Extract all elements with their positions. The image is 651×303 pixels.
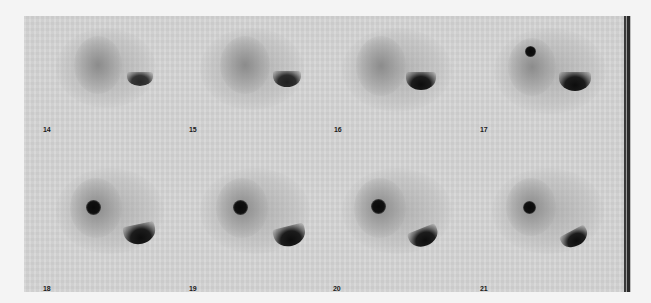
focal-hotspot xyxy=(233,200,248,215)
frame-label: 21 xyxy=(480,285,487,292)
focal-hotspot xyxy=(86,200,101,215)
scan-frame[interactable]: 14 xyxy=(24,16,170,154)
scan-frame[interactable]: 15 xyxy=(170,16,316,154)
diffuse-uptake-region xyxy=(220,36,270,94)
viewer-right-border xyxy=(624,16,631,292)
diffuse-uptake-region xyxy=(74,36,122,94)
focal-hotspot xyxy=(523,201,536,214)
scan-frame[interactable]: 20 xyxy=(316,154,462,292)
diffuse-uptake-region xyxy=(356,36,406,96)
frame-label: 15 xyxy=(189,126,196,133)
scan-frame[interactable]: 17 xyxy=(462,16,608,154)
frame-label: 20 xyxy=(333,285,340,292)
scan-frame[interactable]: 18 xyxy=(24,154,170,292)
scan-frame[interactable]: 16 xyxy=(316,16,462,154)
frame-label: 17 xyxy=(480,126,487,133)
image-viewer-panel: 14 15 16 17 18 19 xyxy=(24,16,624,292)
focal-hotspot xyxy=(525,46,536,57)
frame-label: 16 xyxy=(334,126,341,133)
frame-label: 18 xyxy=(43,285,50,292)
scan-frame[interactable]: 19 xyxy=(170,154,316,292)
frame-label: 14 xyxy=(43,126,50,133)
scan-frame[interactable]: 21 xyxy=(462,154,608,292)
frame-label: 19 xyxy=(189,285,196,292)
focal-hotspot xyxy=(371,199,386,214)
